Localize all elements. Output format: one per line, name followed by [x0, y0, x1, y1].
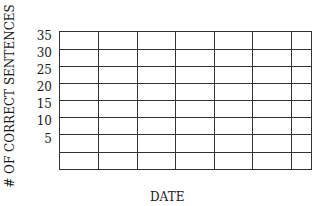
- y-axis-label-text: # OF CORRECT SENTENCES: [3, 4, 17, 188]
- grid-column-line: [98, 32, 99, 169]
- y-tick-30: 30: [37, 47, 52, 59]
- y-tick-20: 20: [37, 81, 52, 93]
- grid-column-line: [214, 32, 215, 169]
- x-axis-label: DATE: [150, 190, 184, 204]
- y-tick-25: 25: [37, 64, 52, 76]
- grid-column-line: [252, 32, 253, 169]
- grid-column-line: [175, 32, 176, 169]
- y-tick-5: 5: [44, 133, 52, 145]
- y-axis-label: # OF CORRECT SENTENCES: [0, 0, 20, 206]
- grid-column-line: [291, 32, 292, 169]
- y-tick-35: 35: [37, 30, 52, 42]
- graph-grid: [59, 31, 312, 170]
- y-tick-10: 10: [37, 115, 52, 127]
- y-tick-15: 15: [37, 98, 52, 110]
- grid-column-line: [137, 32, 138, 169]
